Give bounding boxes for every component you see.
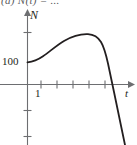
curve-path — [28, 34, 126, 145]
y-axis-label: N — [30, 9, 38, 21]
y-tick-label-100: 100 — [2, 56, 19, 67]
x-axis-label: t — [125, 88, 128, 99]
x-tick-label-1: 1 — [35, 88, 41, 99]
graph-svg — [0, 0, 137, 145]
figure-container: (a) N(t) = ... N t 100 — [0, 0, 137, 145]
t-axis — [0, 81, 135, 88]
n-axis — [24, 9, 31, 145]
